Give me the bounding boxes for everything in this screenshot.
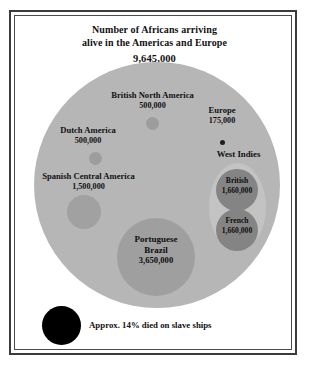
label-spanish-central-america: Spanish Central America 1,500,000 bbox=[22, 171, 155, 192]
label-west-indies-british-value: 1,660,000 bbox=[202, 186, 272, 196]
label-portuguese-brazil-name-line-1: Portuguese bbox=[111, 234, 201, 245]
label-europe-name: Europe bbox=[185, 105, 259, 116]
label-portuguese-brazil-name-line-2: Brazil bbox=[111, 245, 201, 256]
label-europe-value: 175,000 bbox=[185, 116, 259, 127]
label-dutch-america-value: 500,000 bbox=[33, 136, 143, 147]
label-west-indies-british-name: British bbox=[202, 176, 272, 186]
label-dutch-america: Dutch America 500,000 bbox=[33, 125, 143, 146]
chart-title-line-1: Number of Africans arriving bbox=[92, 24, 217, 35]
bubble-europe bbox=[220, 140, 225, 145]
chart-title: Number of Africans arriving alive in the… bbox=[20, 24, 289, 66]
label-spanish-central-america-name: Spanish Central America bbox=[22, 171, 155, 182]
bubble-chart: Number of Africans arriving alive in the… bbox=[0, 0, 309, 371]
label-british-north-america-name: British North America bbox=[77, 90, 228, 101]
chart-title-line-2: alive in the Americas and Europe bbox=[82, 37, 227, 48]
label-west-indies-name: West Indies bbox=[187, 149, 290, 160]
label-died-on-slave-ships: Approx. 14% died on slave ships bbox=[89, 320, 212, 330]
bubble-british-north-america bbox=[146, 117, 159, 130]
label-west-indies-group: West Indies bbox=[187, 149, 290, 160]
label-west-indies-british: British 1,660,000 bbox=[202, 176, 272, 196]
label-west-indies-french-value: 1,660,000 bbox=[202, 226, 272, 236]
bubble-spanish-central-america bbox=[67, 195, 101, 229]
bubble-dutch-america bbox=[89, 152, 102, 165]
label-west-indies-french-name: French bbox=[202, 216, 272, 226]
label-portuguese-brazil-value: 3,650,000 bbox=[111, 255, 201, 266]
label-europe: Europe 175,000 bbox=[185, 105, 259, 126]
label-west-indies-french: French 1,660,000 bbox=[202, 216, 272, 236]
label-portuguese-brazil: Portuguese Brazil 3,650,000 bbox=[111, 234, 201, 266]
label-spanish-central-america-value: 1,500,000 bbox=[22, 182, 155, 193]
label-dutch-america-name: Dutch America bbox=[33, 125, 143, 136]
bubble-died-on-slave-ships bbox=[42, 306, 81, 345]
